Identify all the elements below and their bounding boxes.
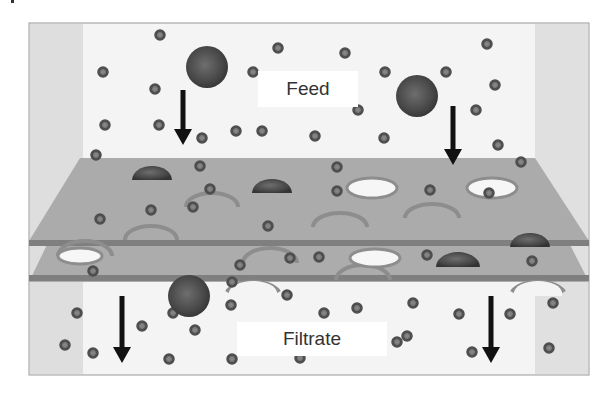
small-particle <box>314 252 324 262</box>
small-particle <box>282 290 292 300</box>
small-particle <box>227 277 237 287</box>
filtrate-label: Filtrate <box>237 322 387 356</box>
small-particle <box>273 43 283 53</box>
small-particle <box>467 347 477 357</box>
small-particle <box>471 105 481 115</box>
small-particle <box>505 309 515 319</box>
small-particle <box>227 354 237 364</box>
small-particle <box>195 161 205 171</box>
small-particle <box>190 325 200 335</box>
large-particle <box>186 46 228 88</box>
small-particle <box>137 321 147 331</box>
small-particle <box>441 67 451 77</box>
feed-label: Feed <box>258 71 358 107</box>
small-particle <box>60 340 70 350</box>
open-pore <box>350 249 400 267</box>
small-particle <box>150 84 160 94</box>
large-particle <box>168 275 210 317</box>
small-particle <box>408 298 418 308</box>
membrane-top-edge <box>29 240 589 246</box>
small-particle <box>402 331 412 341</box>
small-particle <box>527 256 537 266</box>
small-particle <box>516 157 526 167</box>
small-particle <box>188 202 198 212</box>
small-particle <box>88 348 98 358</box>
small-particle <box>263 221 273 231</box>
small-particle <box>493 140 503 150</box>
small-particle <box>454 309 464 319</box>
small-particle <box>392 337 402 347</box>
small-particle <box>154 120 164 130</box>
small-particle <box>248 67 258 77</box>
small-particle <box>380 67 390 77</box>
small-particle <box>91 150 101 160</box>
small-particle <box>340 48 350 58</box>
membrane-bottom-edge <box>29 275 589 281</box>
small-particle <box>205 184 215 194</box>
small-particle <box>544 343 554 353</box>
small-particle <box>72 308 82 318</box>
small-particle <box>100 120 110 130</box>
small-particle <box>197 133 207 143</box>
small-particle <box>88 266 98 276</box>
small-particle <box>422 250 432 260</box>
small-particle <box>425 185 435 195</box>
small-particle <box>146 205 156 215</box>
small-particle <box>231 126 241 136</box>
small-particle <box>332 186 342 196</box>
open-pore <box>347 178 397 198</box>
small-particle <box>548 298 558 308</box>
small-particle <box>257 126 267 136</box>
pore-opening <box>229 292 277 296</box>
small-particle <box>352 303 362 313</box>
small-particle <box>310 131 320 141</box>
small-particle <box>155 30 165 40</box>
small-particle <box>379 133 389 143</box>
small-particle <box>226 300 236 310</box>
small-particle <box>95 214 105 224</box>
small-particle <box>285 253 295 263</box>
small-particle <box>482 39 492 49</box>
small-particle <box>235 260 245 270</box>
large-particle <box>396 75 438 117</box>
membrane-top <box>29 158 589 241</box>
pore-opening <box>514 292 562 296</box>
open-pore <box>58 248 102 264</box>
small-particle <box>98 67 108 77</box>
small-particle <box>490 80 500 90</box>
small-particle <box>319 308 329 318</box>
small-particle <box>484 188 494 198</box>
membrane-stack <box>29 158 589 296</box>
small-particle <box>164 354 174 364</box>
small-particle <box>332 162 342 172</box>
